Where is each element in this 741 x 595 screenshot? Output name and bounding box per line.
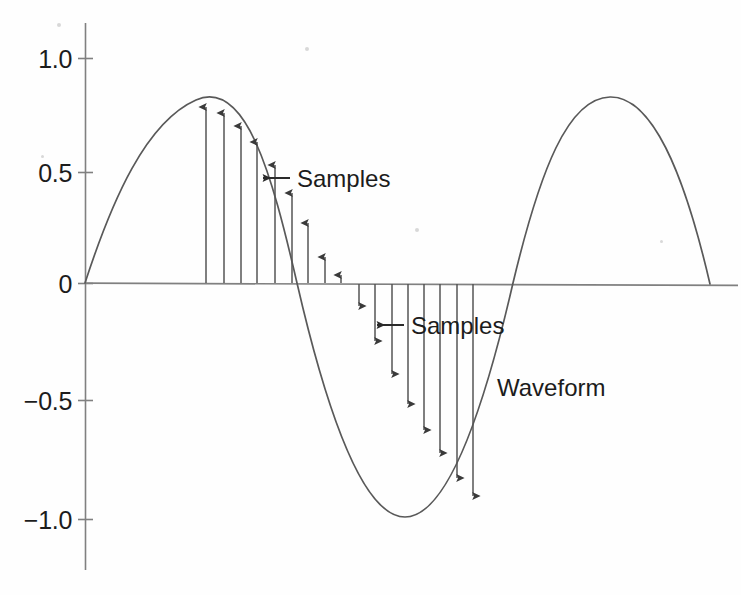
y-tick-label-0: 0 [14, 270, 72, 299]
scan-speck [415, 228, 419, 232]
y-tick-label-neg-1-0: −1.0 [4, 506, 72, 535]
y-tick-label-1-0: 1.0 [14, 45, 72, 74]
waveform-label: Waveform [497, 374, 605, 402]
positive-sample-arrows [206, 107, 341, 283]
y-tick-label-neg-0-5: −0.5 [4, 387, 72, 416]
samples-upper-label: Samples [297, 165, 390, 193]
scan-speck [305, 47, 309, 51]
waveform-sampling-figure: 1.0 0.5 0 −0.5 −1.0 Samples Samples Wave… [0, 0, 741, 595]
samples-lower-label: Samples [411, 312, 504, 340]
waveform-curve [85, 97, 710, 517]
y-tick-label-0-5: 0.5 [14, 159, 72, 188]
scan-speck [660, 240, 663, 243]
scan-speck [57, 23, 61, 27]
x-axis-line [85, 283, 738, 285]
chart-canvas [0, 0, 741, 595]
scan-speck [41, 155, 44, 158]
